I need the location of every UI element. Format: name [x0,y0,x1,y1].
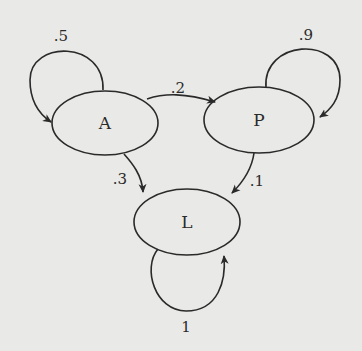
edge-a-l: .3 [113,154,143,192]
edge-a-a-label: .5 [54,27,68,45]
node-l: L [134,189,240,255]
node-l-label: L [181,212,192,232]
node-a: A [52,91,158,155]
edge-p-l: .1 [232,153,264,193]
node-p: P [204,87,314,153]
edge-p-p-label: .9 [299,26,313,44]
edge-l-l: 1 [151,249,224,336]
node-a-label: A [98,113,112,133]
edge-l-l-label: 1 [181,318,191,336]
markov-diagram: A P L .5 .2 .3 .9 .1 1 [0,0,362,351]
edge-p-l-label: .1 [250,172,264,190]
edge-a-a: .5 [30,27,103,122]
edge-a-l-label: .3 [113,170,127,188]
edge-p-p: .9 [266,26,340,117]
node-p-label: P [253,110,264,130]
edge-a-p-label: .2 [171,79,185,97]
edge-a-p: .2 [147,79,215,102]
